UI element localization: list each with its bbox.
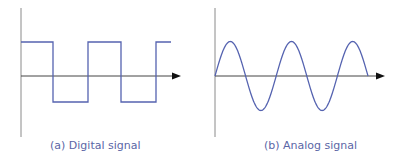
analog-x-axis-arrow-icon (376, 73, 385, 80)
digital-square-wave (21, 42, 171, 102)
digital-signal-caption: (a) Digital signal (50, 139, 141, 152)
digital-signal-panel (21, 8, 181, 137)
digital-x-axis-arrow-icon (172, 73, 181, 80)
analog-signal-panel (215, 8, 385, 137)
analog-signal-caption: (b) Analog signal (264, 139, 357, 152)
